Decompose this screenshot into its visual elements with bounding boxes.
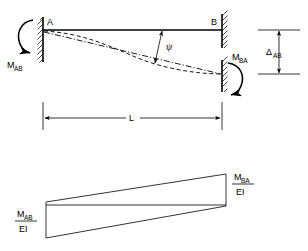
svg-text:AB: AB (14, 65, 23, 72)
figure-canvas: ψ A B M AB M BA Δ AB (0, 0, 308, 251)
moment-arrow-b (228, 63, 242, 95)
support-b-fixed-wall (222, 11, 228, 49)
span-dimension: L (43, 102, 222, 130)
svg-text:BA: BA (239, 57, 248, 64)
svg-text:EI: EI (19, 224, 28, 234)
moment-diagram-right-value: M BA EI (232, 172, 254, 197)
svg-text:AB: AB (273, 52, 282, 59)
support-b-displaced-wall (222, 57, 228, 93)
chord-line (44, 32, 221, 74)
moment-diagram-left-value: M AB EI (15, 209, 37, 234)
engineering-figure: ψ A B M AB M BA Δ AB (0, 0, 308, 251)
moment-diagram (46, 174, 226, 238)
support-a-fixed-wall (38, 17, 44, 63)
svg-text:EI: EI (236, 187, 245, 197)
span-label: L (129, 113, 134, 123)
psi-angle-indicator (155, 31, 162, 63)
settlement-dimension: Δ AB (258, 30, 300, 74)
joint-b-label: B (211, 17, 217, 27)
moment-b-label: M BA (232, 52, 248, 64)
moment-a-label: M AB (7, 60, 23, 72)
svg-text:BA: BA (241, 177, 250, 184)
svg-text:Δ: Δ (266, 47, 272, 57)
svg-text:AB: AB (24, 214, 33, 221)
moment-arrow-a (19, 20, 33, 53)
psi-angle-label: ψ (166, 41, 173, 52)
joint-a-label: A (47, 17, 53, 27)
